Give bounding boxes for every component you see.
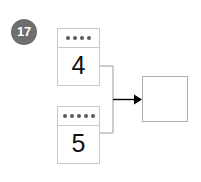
arrow-right-icon [134, 95, 142, 105]
card-value-bottom: 5 [58, 126, 99, 163]
number-card-bottom: 5 [57, 106, 100, 164]
card-value-top: 4 [58, 48, 99, 85]
bracket-path [100, 66, 113, 133]
problem-number-badge: 17 [11, 19, 37, 45]
dot [73, 36, 77, 40]
dot [91, 114, 95, 118]
worksheet-problem: 17 4 5 [0, 0, 201, 182]
dot [80, 36, 84, 40]
dot-row-top [58, 29, 99, 48]
dot [87, 36, 91, 40]
dot [63, 114, 67, 118]
answer-box[interactable] [142, 76, 188, 122]
number-card-top: 4 [57, 28, 100, 86]
dot [70, 114, 74, 118]
dot [84, 114, 88, 118]
dot [77, 114, 81, 118]
dot-row-bottom [58, 107, 99, 126]
dot [66, 36, 70, 40]
